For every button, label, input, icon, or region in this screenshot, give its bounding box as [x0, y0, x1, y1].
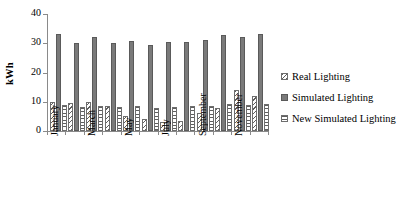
y-tick-label: 0: [36, 124, 41, 136]
bar-newsim: [227, 104, 232, 131]
y-tick-label: 40: [31, 7, 41, 19]
bar-simulated: [166, 42, 171, 131]
legend-label: Real Lighting: [292, 71, 350, 83]
x-axis-label: March: [86, 110, 97, 136]
x-axis-label: November: [233, 94, 244, 136]
bar-real: [105, 106, 110, 131]
legend-label: Simulated Lighting: [292, 92, 373, 104]
bar-simulated: [258, 34, 263, 131]
legend-swatch-icon: [281, 115, 288, 122]
x-tick-mark: [213, 131, 214, 135]
bar-newsim: [62, 105, 67, 131]
bar-newsim: [135, 106, 140, 131]
x-tick-mark: [231, 131, 232, 135]
bar-chart: kWh 010203040 JanuaryMarchMayJulySeptemb…: [0, 0, 415, 203]
x-tick-mark: [139, 131, 140, 135]
bar-newsim: [264, 104, 269, 131]
bar-simulated: [74, 43, 79, 131]
bar-real: [215, 108, 220, 131]
x-tick-mark: [84, 131, 85, 135]
bar-newsim: [154, 108, 159, 131]
bar-simulated: [111, 43, 116, 131]
chart-legend: Real LightingSimulated LightingNew Simul…: [281, 66, 413, 129]
x-tick-mark: [250, 131, 251, 135]
bar-newsim: [209, 106, 214, 131]
x-tick-mark: [121, 131, 122, 135]
x-tick-mark: [176, 131, 177, 135]
bar-newsim: [190, 106, 195, 131]
x-tick-mark: [158, 131, 159, 135]
legend-swatch-icon: [281, 73, 288, 80]
y-tick-label: 30: [31, 36, 41, 48]
legend-item[interactable]: Simulated Lighting: [281, 87, 413, 108]
bar-real: [178, 121, 183, 131]
bar-real: [252, 96, 257, 131]
y-axis-line: [47, 14, 48, 131]
bar-newsim: [80, 107, 85, 131]
x-tick-mark: [65, 131, 66, 135]
bar-newsim: [98, 106, 103, 131]
x-tick-mark: [194, 131, 195, 135]
y-tick-mark: [43, 102, 47, 103]
bar-newsim: [172, 107, 177, 131]
x-tick-mark: [268, 131, 269, 135]
x-tick-mark: [47, 131, 48, 135]
bar-newsim: [246, 105, 251, 131]
bar-simulated: [221, 35, 226, 131]
legend-item[interactable]: New Simulated Lighting: [281, 108, 413, 129]
x-axis-label: January: [49, 105, 60, 136]
y-tick-mark: [43, 14, 47, 15]
bar-simulated: [184, 42, 189, 132]
legend-item[interactable]: Real Lighting: [281, 66, 413, 87]
bar-simulated: [148, 45, 153, 131]
y-tick-label: 20: [31, 66, 41, 78]
legend-swatch-icon: [281, 94, 288, 101]
legend-label: New Simulated Lighting: [292, 113, 396, 125]
bar-real: [142, 119, 147, 131]
x-axis-label: September: [197, 93, 208, 136]
y-tick-label: 10: [31, 95, 41, 107]
y-axis-title: kWh: [2, 52, 18, 96]
x-axis-label: May: [123, 118, 134, 136]
y-tick-mark: [43, 73, 47, 74]
y-tick-mark: [43, 43, 47, 44]
bar-real: [68, 103, 73, 131]
x-tick-mark: [102, 131, 103, 135]
x-axis-label: July: [160, 119, 171, 136]
bar-newsim: [117, 107, 122, 131]
